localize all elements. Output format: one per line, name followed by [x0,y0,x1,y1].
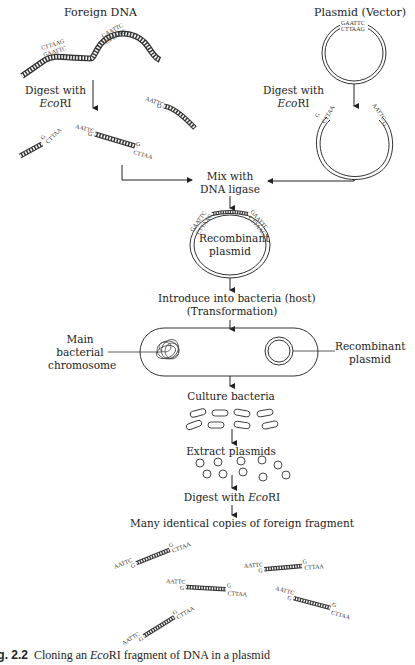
svg-text:CTTAA: CTTAA [133,149,154,160]
svg-text:CTTAAG: CTTAAG [341,26,366,32]
right-digest-label: Digest with EcoRI [263,84,324,110]
extract-label: Extract plasmids [186,445,276,458]
svg-text:AATTC: AATTC [371,102,387,121]
plasmid-in-cell [265,337,293,365]
chromosome-label: Main bacterial chromosome [48,333,112,372]
plasmid-vector: GAATTC CTTAAG [322,20,386,84]
connector-left [122,165,192,180]
bacterium-cell [140,328,318,376]
svg-text:CTTAA: CTTAA [227,590,247,597]
extracted-plasmids [196,456,290,481]
svg-text:CTTAA: CTTAA [175,605,195,621]
svg-text:G: G [136,141,141,147]
svg-text:AATTC: AATTC [275,585,295,596]
svg-text:G: G [314,111,322,118]
svg-text:G: G [88,131,93,137]
digest-final-label: Digest with EcoRI [182,491,282,504]
svg-text:CTTAA: CTTAA [330,609,351,620]
recombinant-plasmid-label: Recombinant plasmid [199,232,261,258]
culture-label: Culture bacteria [186,390,276,403]
svg-text:G: G [157,103,162,109]
svg-text:CTTAA: CTTAA [304,563,325,571]
foreign-dna-heading: Foreign DNA [64,6,137,19]
svg-text:CTTAA: CTTAA [44,126,63,145]
svg-text:AATTC: AATTC [145,95,165,107]
plasmid-heading: Plasmid (Vector) [314,6,406,19]
figure-caption: ig. 2.2 Cloning an EcoRI fragment of DNA… [0,648,270,663]
svg-text:G: G [331,601,337,608]
fragment-copies: AATTCG GCTTAA AATTCG GCTTAA AATTCG GCTTA… [113,534,354,652]
svg-text:G: G [258,567,264,573]
mix-label: Mix with DNA ligase [198,170,262,196]
foreign-dna-strand: CTTAAG GAATTC GAATTC CTTAAG [22,22,160,76]
bacterial-chromosome [155,336,182,361]
recombinant-plasmid-side-label: Recombinant plasmid [335,340,405,366]
left-digest-label: Digest with EcoRI [25,84,86,110]
introduce-label: Introduce into bacteria (host) (Transfor… [158,292,306,318]
svg-text:G: G [287,595,293,602]
svg-text:G: G [227,582,232,588]
copies-label: Many identical copies of foreign fragmen… [130,517,334,530]
cut-plasmid: G CTTAA AATTC G [314,102,393,179]
cultured-bacteria [185,408,278,431]
svg-text:G: G [180,585,185,591]
svg-text:CTTAA: CTTAA [171,541,192,554]
connector-right [268,180,354,181]
svg-text:G: G [130,562,137,569]
